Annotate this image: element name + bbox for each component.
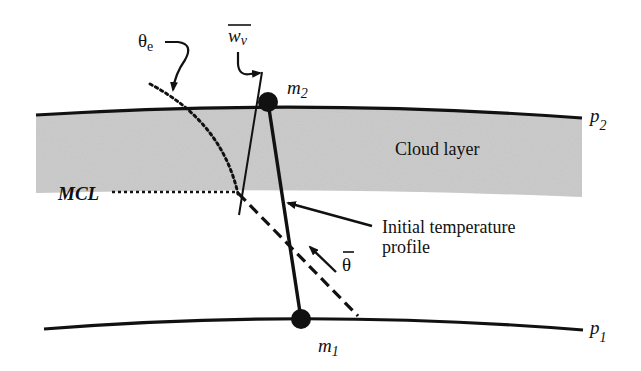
initial-profile-label-line1: Initial temperature [382,217,515,237]
mcl-label: MCL [57,183,99,204]
cloud-layer-diagram: θe wv m2 p2 Cloud layer MCL Initial temp… [0,0,641,371]
p1-label: p1 [588,317,607,345]
theta-e-label: θe [138,30,153,54]
m2-point [258,92,278,112]
initial-profile-label-line2: profile [382,237,430,257]
m2-label: m2 [287,77,308,101]
p1-level-line [44,319,583,330]
wv-bar-label: wv [228,25,248,48]
p2-label: p2 [588,105,607,133]
wv-pointer-arrow [238,52,260,74]
m1-label: m1 [318,335,339,359]
theta-bar-label: θ [342,254,351,275]
initial-profile-pointer-arrow [288,203,372,226]
theta-e-pointer-arrow [165,42,188,90]
cloud-layer-label: Cloud layer [395,139,479,159]
theta-bar-direction-arrow [310,247,336,272]
m1-point [291,309,311,329]
cloud-layer-region [36,107,582,197]
